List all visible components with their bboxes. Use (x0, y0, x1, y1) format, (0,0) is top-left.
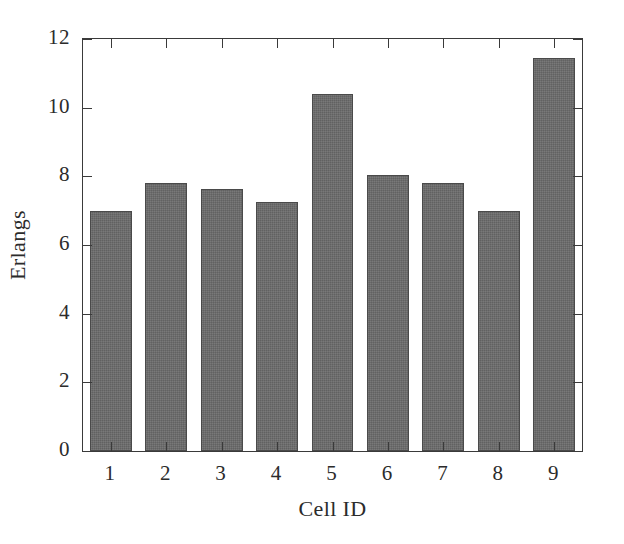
x-axis-tick-top (333, 39, 334, 48)
x-axis-tick-top (222, 39, 223, 48)
x-axis-tick-top (443, 39, 444, 48)
x-axis-title: Cell ID (82, 496, 583, 522)
y-axis-tick (83, 39, 92, 40)
x-axis-tick-top (277, 39, 278, 48)
x-axis-tick (222, 442, 223, 451)
bar (201, 189, 243, 451)
x-axis-tick (554, 442, 555, 451)
bar-chart-figure: Erlangs 024681012 123456789 Cell ID (0, 0, 624, 544)
x-axis-tick (333, 442, 334, 451)
x-axis-tick-top (554, 39, 555, 48)
x-axis-tick (277, 442, 278, 451)
y-axis-tick-right (573, 314, 582, 315)
plot-area (82, 38, 583, 452)
x-axis-tick (166, 442, 167, 451)
x-axis-tick-label: 8 (468, 463, 528, 484)
y-axis-tick (83, 314, 92, 315)
y-axis-tick-right (573, 451, 582, 452)
y-axis-tick (83, 451, 92, 452)
x-axis-tick-top (166, 39, 167, 48)
bar (256, 202, 298, 451)
y-axis-tick-label: 6 (10, 233, 70, 254)
y-axis-tick (83, 108, 92, 109)
y-axis-tick-labels: 024681012 (0, 38, 70, 452)
y-axis-tick-label: 2 (10, 370, 70, 391)
x-axis-tick-label: 6 (357, 463, 417, 484)
x-axis-tick-label: 2 (135, 463, 195, 484)
y-axis-tick-right (573, 176, 582, 177)
y-axis-tick-label: 0 (10, 439, 70, 460)
x-axis-tick-label: 1 (80, 463, 140, 484)
y-axis-tick-label: 10 (10, 96, 70, 117)
bar (533, 58, 575, 451)
x-axis-tick (111, 442, 112, 451)
x-axis-tick-label: 4 (246, 463, 306, 484)
y-axis-tick-right (573, 245, 582, 246)
x-axis-tick-top (388, 39, 389, 48)
y-axis-tick-right (573, 108, 582, 109)
bar (478, 211, 520, 451)
bar (312, 94, 354, 451)
x-axis-tick-label: 7 (412, 463, 472, 484)
bar (145, 183, 187, 451)
y-axis-tick-right (573, 39, 582, 40)
y-axis-tick-label: 8 (10, 164, 70, 185)
x-axis-tick-label: 5 (302, 463, 362, 484)
y-axis-tick-right (573, 382, 582, 383)
y-axis-tick-label: 4 (10, 302, 70, 323)
bar (422, 183, 464, 451)
y-axis-tick (83, 382, 92, 383)
x-axis-tick-top (111, 39, 112, 48)
x-axis-tick (499, 442, 500, 451)
x-axis-tick-labels: 123456789 (82, 463, 583, 491)
bar-series (83, 39, 582, 451)
x-axis-tick-label: 9 (523, 463, 583, 484)
y-axis-tick-label: 12 (10, 27, 70, 48)
y-axis-tick (83, 176, 92, 177)
bar (90, 211, 132, 451)
x-axis-tick-label: 3 (191, 463, 251, 484)
x-axis-tick (388, 442, 389, 451)
y-axis-tick (83, 245, 92, 246)
x-axis-tick (443, 442, 444, 451)
bar (367, 175, 409, 451)
x-axis-tick-top (499, 39, 500, 48)
